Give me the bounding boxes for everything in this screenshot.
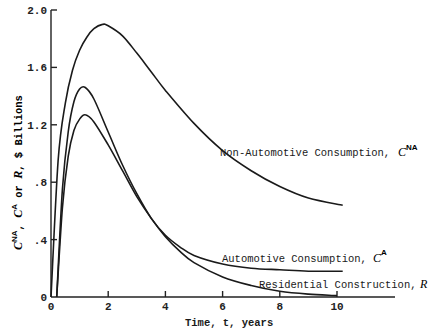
y-title-rest: , $ Billions [13, 95, 25, 171]
chart-canvas: 0.4.81.21.62.0 0246810 Non-Automotive Co… [0, 0, 435, 334]
y-tick-label: .4 [34, 235, 48, 247]
y-title-sup1: NA [10, 230, 19, 242]
y-tick-label: .8 [34, 177, 48, 189]
y-tick-label: 0 [40, 292, 47, 304]
y-title-r: R [11, 171, 25, 180]
label-r-text: Residential Construction, [259, 279, 417, 291]
x-tick-label: 8 [276, 301, 283, 313]
label-na-text: Non-Automotive Consumption, [220, 147, 390, 159]
y-tick-label: 1.6 [27, 62, 47, 74]
label-automotive: Automotive Consumption, C A [222, 248, 387, 265]
label-a-superscript: A [381, 248, 387, 257]
y-tick-label: 1.2 [27, 120, 47, 132]
x-tick-label: 2 [105, 301, 112, 313]
x-tick-label: 0 [48, 301, 55, 313]
label-residential: Residential Construction, R [259, 277, 428, 291]
y-title-sep2: or [13, 179, 25, 204]
x-tick-label: 6 [219, 301, 226, 313]
x-ticks: 0246810 [48, 291, 344, 313]
label-r-symbol: R [419, 277, 428, 291]
svg-text:CNA, CA or R, $ Billions: CNA, CA or R, $ Billions [10, 95, 25, 250]
label-a-text: Automotive Consumption, [222, 253, 367, 265]
label-non-automotive: Non-Automotive Consumption, C NA [220, 143, 418, 159]
x-axis-title: Time, t, years [185, 317, 273, 329]
x-tick-label: 4 [162, 301, 169, 313]
curve-residential [57, 115, 337, 297]
label-na-superscript: NA [406, 143, 418, 152]
y-tick-label: 2.0 [27, 5, 47, 17]
y-axis-title: CNA, CA or R, $ Billions [10, 95, 25, 250]
y-title-sep1: , [13, 218, 25, 231]
x-tick-label: 10 [330, 301, 343, 313]
